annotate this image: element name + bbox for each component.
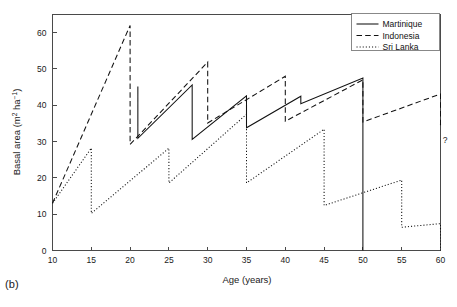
legend-label-sri-lanka: Sri Lanka	[383, 42, 419, 52]
y-tick-label-40: 40	[37, 100, 47, 110]
y-tick-label-10: 10	[37, 209, 47, 219]
x-tick-label-10: 10	[48, 255, 58, 265]
chart-legend: MartiniqueIndonesiaSri Lanka	[352, 14, 440, 53]
x-tick-label-20: 20	[125, 255, 135, 265]
y-tick-label-0: 0	[42, 246, 47, 256]
x-axis: 1015202530354045505560	[48, 247, 446, 265]
panel-label: (b)	[5, 278, 19, 290]
y-tick-label-20: 20	[37, 173, 47, 183]
legend-label-martinique: Martinique	[383, 19, 423, 29]
x-tick-label-45: 45	[319, 255, 329, 265]
x-tick-label-30: 30	[203, 255, 213, 265]
x-tick-label-40: 40	[281, 255, 291, 265]
x-axis-title: Age (years)	[222, 274, 271, 285]
series-line-sri-lanka	[53, 114, 441, 250]
y-axis-title: Basal area (m2 ha−1)	[11, 89, 23, 176]
y-tick-label-60: 60	[37, 28, 47, 38]
svg-text:Basal area (m2 ha−1): Basal area (m2 ha−1)	[11, 89, 23, 176]
x-tick-label-15: 15	[87, 255, 97, 265]
x-tick-label-60: 60	[436, 255, 446, 265]
basal-area-line-chart: 1015202530354045505560 0102030405060 Age…	[0, 0, 457, 307]
y-axis-title-mid: ha	[11, 99, 22, 113]
x-tick-label-50: 50	[358, 255, 368, 265]
data-series-group	[53, 25, 441, 250]
y-axis-title-base: Basal area (m	[11, 116, 22, 175]
legend-label-indonesia: Indonesia	[383, 31, 420, 41]
y-tick-label-50: 50	[37, 64, 47, 74]
series-line-martinique	[138, 78, 363, 250]
x-tick-label-55: 55	[397, 255, 407, 265]
figure-panel-b: 1015202530354045505560 0102030405060 Age…	[0, 0, 457, 307]
y-tick-label-30: 30	[37, 137, 47, 147]
y-axis: 0102030405060	[37, 28, 56, 256]
unknown-future-annotation: ?	[443, 135, 448, 145]
x-tick-label-35: 35	[242, 255, 252, 265]
x-tick-label-25: 25	[164, 255, 174, 265]
y-axis-title-tail: )	[11, 89, 22, 92]
chart-annotations: ?	[443, 135, 448, 145]
